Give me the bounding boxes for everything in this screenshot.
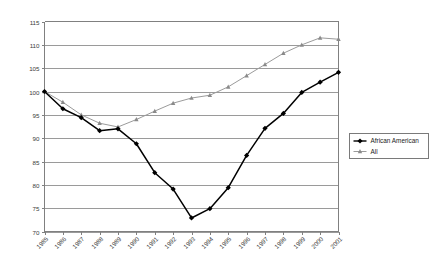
x-tick-label: 2001 [329,235,344,250]
x-tick-label: 1994 [200,235,215,250]
y-tick-label: 80 [33,182,40,189]
line-chart: 707580859095100105110115 198519861987198… [0,0,436,275]
legend-label: African American [371,137,420,144]
x-tick-label: 1990 [126,235,141,250]
y-tick-label: 100 [29,89,40,96]
x-tick-label: 1992 [163,235,178,250]
x-tick-label: 1989 [108,235,123,250]
x-tick-label: 1999 [292,235,307,250]
data-point-marker [263,62,267,66]
y-tick-label: 115 [30,19,40,26]
y-tick-label: 75 [33,205,40,212]
x-tick-label: 1985 [35,235,50,250]
chart-legend: African AmericanAll [350,134,429,159]
y-tick-label: 70 [33,229,40,236]
x-tick-label: 1991 [145,235,160,250]
data-point-marker [226,84,230,88]
y-tick-label: 95 [33,112,40,119]
x-tick-label: 1986 [53,235,68,250]
x-tick-labels: 1985198619871988198919901991199219931994… [35,235,344,250]
y-tick-label: 85 [33,159,40,166]
x-tick-label: 2000 [310,235,325,250]
series-line [45,72,339,218]
series-all [42,35,340,128]
x-tick-label: 1988 [90,235,105,250]
x-tick-label: 1993 [182,235,197,250]
x-tick-label: 1997 [255,235,270,250]
x-tick-label: 1996 [237,235,252,250]
x-tick-label: 1995 [218,235,233,250]
axes [45,22,339,232]
x-tick-label: 1998 [273,235,288,250]
y-tick-label: 110 [30,42,40,49]
x-tick-label: 1987 [71,235,86,250]
legend-label: All [371,148,378,155]
data-point-marker [244,73,248,77]
y-tick-label: 105 [29,65,40,72]
y-tick-label: 90 [33,135,40,142]
grid-lines [45,46,339,233]
series-line [45,38,339,127]
y-tick-labels: 707580859095100105110115 [29,19,40,236]
data-point-marker [61,100,65,104]
chart-container: 707580859095100105110115 198519861987198… [0,0,436,275]
